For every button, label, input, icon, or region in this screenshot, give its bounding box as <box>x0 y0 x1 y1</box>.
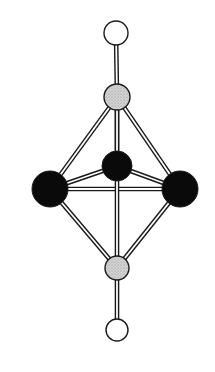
molecule-diagram <box>0 0 215 372</box>
atom-bottom-apical-gray-icon <box>105 256 129 280</box>
atom-eq-back-black-icon <box>102 151 132 181</box>
atom-top-terminal-white-icon <box>104 21 128 45</box>
bonds-group <box>50 33 180 330</box>
atom-top-apical-gray-icon <box>104 84 130 110</box>
atom-eq-right-black-icon <box>162 171 198 207</box>
atom-bottom-terminal-white-icon <box>106 319 128 341</box>
atom-eq-left-black-icon <box>32 171 68 207</box>
